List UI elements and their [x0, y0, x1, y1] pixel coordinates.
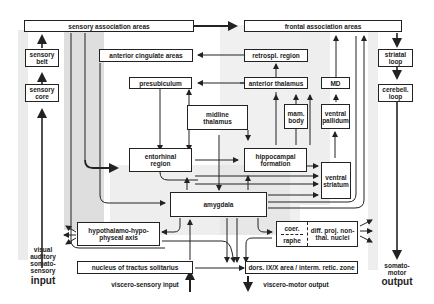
input-modalities-label: visual auditory somato- sensory [14, 246, 72, 274]
cerebellar-loop-box: cerebell. loop [378, 84, 413, 102]
limbic-system-diagram: sensory association areas frontal associ… [0, 0, 434, 304]
diffuse-projection-nonthalamic-nuclei-label: diff. proj. non- thal. nuclei [308, 222, 357, 246]
frontal-association-areas-box: frontal association areas [244, 20, 402, 32]
presubiculum-box: presubiculum [129, 77, 192, 89]
striatal-loop-box: striatal loop [378, 49, 413, 67]
coeruleus-raphe-diffuse-projection-box: coer. raphe diff. proj. non- thal. nucle… [276, 221, 358, 247]
somato-motor-label: somato- motor [372, 262, 422, 276]
midline-thalamus-box: midline thalamus [187, 105, 248, 130]
entorhinal-region-box: entorhinal region [129, 148, 192, 172]
coeruleus-raphe-section: coer. raphe [277, 222, 308, 246]
dorsal-ix-x-area-box: dors. IX/X area / interm. retic. zone [245, 261, 358, 274]
retrosplenial-region-box: retrospl. region [244, 49, 308, 62]
hippocampal-formation-box: hippocampal formation [244, 148, 307, 172]
anterior-cingulate-areas-box: anterior cingulate areas [99, 49, 193, 62]
ventral-striatum-box: ventral striatum [321, 162, 351, 199]
anterior-thalamus-box: anterior thalamus [244, 77, 308, 89]
viscero-sensory-input-label: viscero-sensory input [105, 281, 185, 288]
sensory-belt-box: sensory belt [25, 49, 59, 67]
raphe-label: raphe [283, 235, 301, 244]
hypothalamo-hypophyseal-axis-box: hypothalamo-hypo- physeal axis [77, 222, 160, 246]
ventral-pallidum-box: ventral pallidum [321, 104, 350, 129]
md-box: MD [321, 77, 350, 89]
viscero-motor-output-label: viscero-motor output [256, 281, 336, 288]
sensory-core-box: sensory core [25, 84, 59, 102]
coeruleus-label: coer. [281, 224, 302, 235]
input-label: input [14, 275, 72, 286]
output-label: output [372, 276, 422, 287]
mammillary-body-box: mam. body [284, 104, 308, 129]
amygdala-box: amygdala [170, 192, 267, 217]
nucleus-tractus-solitarius-box: nucleus of tractus solitarius [77, 261, 193, 274]
sensory-association-areas-box: sensory association areas [24, 20, 194, 32]
